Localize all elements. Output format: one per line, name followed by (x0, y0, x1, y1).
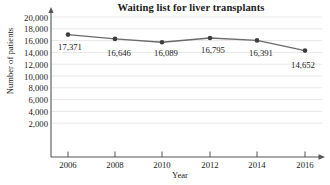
data-point (160, 40, 165, 45)
data-point-label: 16,795 (189, 45, 237, 55)
x-tick-label: 2006 (48, 160, 88, 170)
x-tick-label: 2010 (142, 160, 182, 170)
data-point (66, 32, 71, 37)
x-axis (51, 152, 325, 160)
line-chart: Waiting list for liver transplants Numbe… (0, 0, 330, 185)
plot-area (0, 0, 330, 185)
data-point-label: 16,391 (237, 48, 285, 58)
x-tick-label: 2016 (285, 160, 325, 170)
data-point-label: 16,646 (95, 48, 143, 58)
x-axis-label: Year (51, 170, 309, 180)
data-point-label: 16,089 (142, 48, 190, 58)
data-point (303, 48, 308, 53)
data-point-label: 17,371 (46, 42, 94, 52)
y-axis (48, 7, 53, 157)
data-point (208, 36, 213, 41)
x-tick-label: 2008 (95, 160, 135, 170)
data-point (255, 38, 260, 43)
x-tick-label: 2012 (190, 160, 230, 170)
data-point-label: 14,652 (279, 60, 327, 70)
gridlines (51, 17, 322, 123)
data-point (113, 37, 118, 42)
x-tick-label: 2014 (237, 160, 277, 170)
